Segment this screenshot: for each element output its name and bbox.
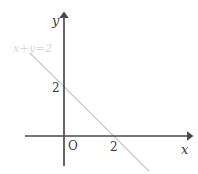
plot-canvas xyxy=(0,0,198,174)
y-axis-label: y xyxy=(52,14,59,27)
y-axis-arrowhead xyxy=(59,12,69,19)
y-tick-label-2: 2 xyxy=(52,82,60,94)
x-axis-arrowhead xyxy=(187,131,194,141)
x-tick-label-2: 2 xyxy=(110,141,118,153)
x-axis-label: x xyxy=(181,143,188,156)
origin-label: O xyxy=(68,140,78,152)
line-x-plus-y-equals-2 xyxy=(30,53,149,171)
coordinate-plane-figure: y x O 2 2 x+y=2 xyxy=(0,0,198,174)
line-equation-label: x+y=2 xyxy=(13,43,52,54)
